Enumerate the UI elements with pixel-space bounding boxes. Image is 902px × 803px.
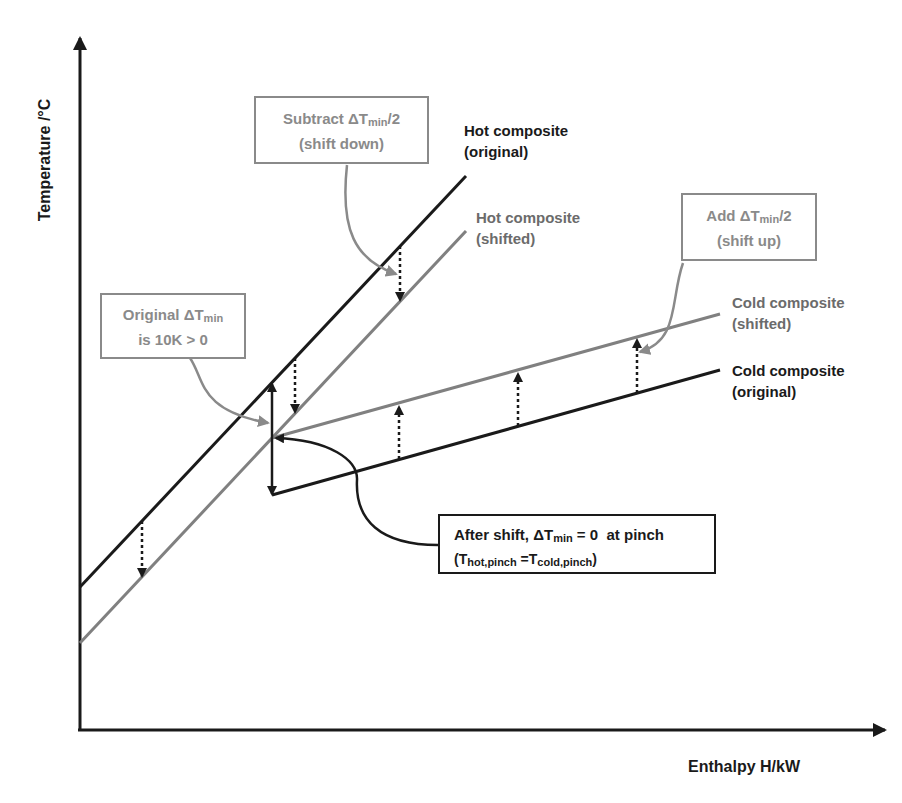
original-callout-connector: [190, 358, 268, 423]
original-dtmin-callout: Original ΔTmin is 10K > 0: [100, 293, 246, 359]
hot-original-label: Hot composite (original): [464, 120, 568, 162]
hot-composite-original-line: [80, 176, 466, 587]
subtract-dtmin-callout: Subtract ΔTmin/2 (shift down): [254, 96, 429, 164]
add-dtmin-callout: Add ΔTmin/2 (shift up): [681, 193, 817, 261]
cold-composite-shifted-line: [272, 314, 720, 438]
cold-shifted-label: Cold composite (shifted): [732, 292, 845, 334]
x-axis-label: Enthalpy H/kW: [688, 758, 800, 776]
hot-shifted-label: Hot composite (shifted): [476, 207, 580, 249]
cold-composite-original-line: [272, 370, 720, 495]
after-shift-callout: After shift, ΔTmin = 0 at pinch (Thot,pi…: [438, 514, 716, 574]
add-callout-connector: [640, 263, 683, 352]
cold-original-label: Cold composite (original): [732, 360, 845, 402]
y-axis-label: Temperature /°C: [36, 99, 54, 222]
